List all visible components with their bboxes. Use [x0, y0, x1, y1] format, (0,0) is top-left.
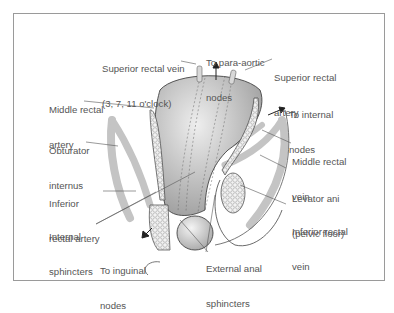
external-sphincter-right — [221, 173, 245, 213]
label-inguinal-nodes: To inguinal nodes — [100, 242, 146, 313]
label-inferior-rectal-vein: Inferior rectal vein — [292, 203, 348, 284]
label-para-aortic-nodes: To para-aortic nodes — [206, 34, 265, 115]
label-external-anal-sphincters: External anal sphincters — [206, 240, 262, 313]
label-superior-rectal-vein: Superior rectal vein (3, 7, 11 o'clock) — [102, 40, 185, 121]
external-sphincter-left — [149, 205, 170, 250]
label-internal-sphincters: Internal sphincters — [49, 208, 93, 289]
